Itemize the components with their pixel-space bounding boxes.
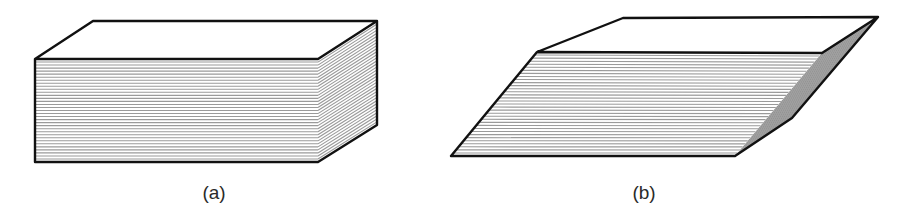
- panel-b-caption: (b): [614, 182, 674, 204]
- panel-a-front-sheet-lines: [35, 62, 318, 159]
- panel-b-front-sheet-lines: [454, 55, 820, 153]
- panel-a-caption: (a): [184, 182, 244, 204]
- sheared-stack-diagram: [0, 0, 916, 219]
- panel-b-block: [451, 17, 878, 156]
- panel-b-top-face: [537, 17, 878, 53]
- panel-a-block: [35, 21, 377, 162]
